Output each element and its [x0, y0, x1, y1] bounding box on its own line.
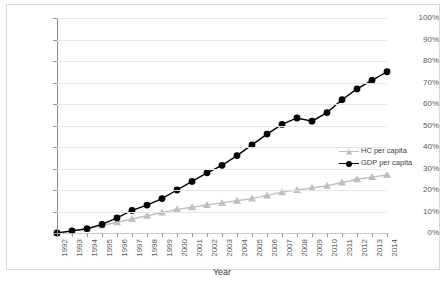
- x-axis-tick-mark: [267, 233, 268, 237]
- y-axis-tick-label: 60%: [395, 100, 439, 108]
- data-point-marker: [129, 207, 136, 214]
- y-axis-tick-label: 80%: [395, 57, 439, 65]
- y-axis-tick-mark: [53, 40, 57, 41]
- x-axis-tick-mark: [222, 233, 223, 237]
- x-axis-tick-mark: [237, 233, 238, 237]
- x-axis-tick-mark: [147, 233, 148, 237]
- x-axis-tick-label: 2013: [376, 239, 384, 257]
- x-axis-tick-label: 1997: [136, 239, 144, 257]
- series-line: [57, 72, 387, 233]
- y-axis-tick-mark: [53, 83, 57, 84]
- y-axis-tick-label: 0%: [395, 229, 439, 237]
- x-axis-title: Year: [57, 267, 387, 277]
- gridline: [57, 169, 387, 170]
- x-axis-tick-label: 1995: [106, 239, 114, 257]
- x-axis-tick-mark: [87, 233, 88, 237]
- data-point-marker: [84, 225, 91, 232]
- x-axis-tick-mark: [282, 233, 283, 237]
- x-axis-tick-label: 2004: [241, 239, 249, 257]
- x-axis-tick-label: 2011: [346, 239, 354, 256]
- data-point-marker: [204, 169, 211, 176]
- x-axis-tick-label: 2012: [361, 239, 369, 257]
- x-axis-tick-mark: [57, 233, 58, 237]
- y-axis-tick-label: 100%: [395, 14, 439, 22]
- x-axis-tick-mark: [342, 233, 343, 237]
- x-axis-tick-mark: [312, 233, 313, 237]
- legend-triangle-marker-icon: [339, 146, 359, 156]
- legend-item[interactable]: HC per capita: [339, 145, 412, 157]
- data-point-marker: [294, 115, 301, 122]
- x-axis-tick-mark: [297, 233, 298, 237]
- x-axis-tick-label: 1998: [151, 239, 159, 257]
- x-axis-tick-mark: [252, 233, 253, 237]
- x-axis-tick-label: 2008: [301, 239, 309, 257]
- chart-container: 0%10%20%30%40%50%60%70%80%90%100% 199219…: [6, 4, 440, 270]
- data-point-marker: [144, 202, 151, 209]
- x-axis-tick-mark: [102, 233, 103, 237]
- y-axis-tick-mark: [53, 169, 57, 170]
- data-point-marker: [159, 195, 166, 202]
- gridline: [57, 18, 387, 19]
- data-point-marker: [339, 96, 346, 103]
- legend-item[interactable]: GDP per capita: [339, 157, 412, 169]
- y-axis-tick-mark: [53, 18, 57, 19]
- x-axis-tick-label: 1999: [166, 239, 174, 257]
- y-axis-tick-mark: [53, 212, 57, 213]
- x-axis-tick-mark: [357, 233, 358, 237]
- y-axis-tick-mark: [53, 190, 57, 191]
- chart-legend: HC per capitaGDP per capita: [339, 145, 412, 169]
- data-point-marker: [264, 131, 271, 138]
- data-point-marker: [189, 178, 196, 185]
- x-axis-tick-label: 2005: [256, 239, 264, 257]
- data-point-marker: [279, 121, 286, 128]
- x-axis-tick-label: 2003: [226, 239, 234, 257]
- gridline: [57, 104, 387, 105]
- x-axis-tick-label: 1996: [121, 239, 129, 257]
- data-point-marker: [383, 171, 391, 178]
- data-point-marker: [99, 221, 106, 228]
- y-axis-tick-mark: [53, 147, 57, 148]
- y-axis-tick-mark: [53, 61, 57, 62]
- y-axis-tick-label: 50%: [395, 122, 439, 130]
- x-axis-tick-mark: [327, 233, 328, 237]
- x-axis-tick-mark: [72, 233, 73, 237]
- x-axis-tick-mark: [177, 233, 178, 237]
- x-axis-tick-mark: [387, 233, 388, 237]
- x-axis-tick-mark: [162, 233, 163, 237]
- x-axis-tick-mark: [372, 233, 373, 237]
- x-axis-tick-mark: [117, 233, 118, 237]
- y-axis-tick-mark: [53, 126, 57, 127]
- gridline: [57, 61, 387, 62]
- x-axis-tick-label: 2009: [316, 239, 324, 257]
- x-axis-tick-mark: [192, 233, 193, 237]
- x-axis-tick-mark: [132, 233, 133, 237]
- x-axis-tick-label: 2002: [211, 239, 219, 257]
- legend-item-label: GDP per capita: [361, 157, 412, 169]
- legend-circle-marker-icon: [339, 158, 359, 168]
- x-axis-tick-mark: [207, 233, 208, 237]
- gridline: [57, 212, 387, 213]
- data-point-marker: [309, 118, 316, 125]
- x-axis-tick-label: 2000: [181, 239, 189, 257]
- y-axis-tick-label: 70%: [395, 79, 439, 87]
- data-point-marker: [114, 215, 121, 222]
- data-point-marker: [354, 86, 361, 93]
- x-axis-tick-label: 2001: [196, 239, 204, 257]
- gridline: [57, 147, 387, 148]
- x-axis-tick-label: 2007: [286, 239, 294, 257]
- x-axis-tick-label: 1992: [61, 239, 69, 257]
- gridline: [57, 126, 387, 127]
- x-axis-tick-label: 1994: [91, 239, 99, 257]
- x-axis-tick-label: 2014: [391, 239, 399, 257]
- legend-item-label: HC per capita: [361, 145, 407, 157]
- gridline: [57, 83, 387, 84]
- data-point-marker: [234, 152, 241, 159]
- x-axis-tick-label: 2010: [331, 239, 339, 257]
- x-axis-tick-label: 2006: [271, 239, 279, 257]
- y-axis-title: Growth rate: [21, 245, 33, 282]
- data-point-marker: [384, 68, 391, 75]
- gridline: [57, 40, 387, 41]
- y-axis-tick-label: 90%: [395, 36, 439, 44]
- y-axis-tick-label: 20%: [395, 186, 439, 194]
- y-axis-tick-mark: [53, 104, 57, 105]
